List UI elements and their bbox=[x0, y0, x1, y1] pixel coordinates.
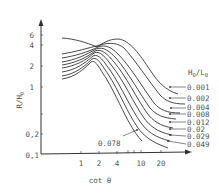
y-tick-label: 1 bbox=[29, 83, 34, 92]
y-tick-label: 6 bbox=[29, 31, 34, 40]
legend: H0/L0 0.001 0.002 0.004 0.008 0.012 0.02… bbox=[98, 68, 210, 149]
legend-title: H0/L0 bbox=[188, 68, 208, 78]
y-axis-arrow-icon bbox=[39, 19, 44, 26]
legend-label: 0.001 bbox=[187, 83, 210, 92]
y-tick-label: 0,2 bbox=[25, 130, 39, 139]
y-tick-label: 2 bbox=[29, 62, 34, 71]
x-tick-label: 4 bbox=[115, 159, 120, 168]
curve-0.078 bbox=[62, 61, 142, 141]
curve-0.002 bbox=[62, 43, 185, 104]
x-tick-label: 10 bbox=[136, 159, 146, 168]
x-axis-title: cot θ bbox=[89, 176, 112, 185]
curve-0.049 bbox=[62, 58, 168, 148]
svg-text:R/H0: R/H0 bbox=[15, 92, 25, 109]
curve-0.012 bbox=[62, 50, 173, 128]
legend-label: 0.078 bbox=[98, 139, 121, 148]
curves bbox=[62, 38, 185, 148]
legend-label: 0.049 bbox=[187, 140, 210, 149]
x-axis-line bbox=[41, 152, 188, 154]
chart-canvas: 6 4 2 1 0,2 0,1 1 2 4 10 20 cot θ R/H0 bbox=[0, 0, 219, 194]
curve-0.008 bbox=[62, 48, 176, 119]
legend-label: 0.002 bbox=[187, 94, 210, 103]
x-tick-label: 1 bbox=[79, 159, 84, 168]
x-axis-arrow-icon bbox=[185, 150, 192, 155]
y-axis-title: R/H0 bbox=[15, 92, 25, 109]
x-tick-label: 20 bbox=[156, 159, 166, 168]
y-tick-label: 0,1 bbox=[25, 151, 39, 160]
y-tick-label: 4 bbox=[29, 41, 34, 50]
x-tick-label: 2 bbox=[97, 159, 102, 168]
curve-0.02 bbox=[62, 52, 172, 135]
